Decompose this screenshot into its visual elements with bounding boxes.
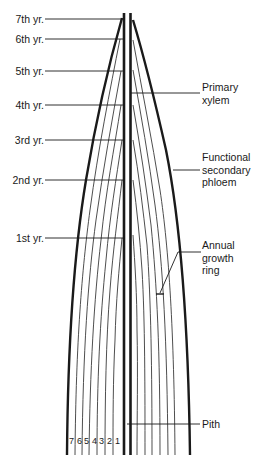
- ring-number-1: 1: [115, 436, 120, 446]
- label-functional-secondary-phloem: Functional secondary phloem: [202, 151, 250, 189]
- ring-number-2: 2: [107, 436, 112, 446]
- label-4th-yr: 4th yr.: [6, 99, 44, 112]
- label-1st-yr: 1st yr.: [6, 232, 44, 245]
- label-line: growth: [202, 252, 235, 265]
- label-6th-yr: 6th yr.: [6, 33, 44, 46]
- ring-number-4: 4: [92, 436, 97, 446]
- label-line: xylem: [202, 94, 238, 107]
- label-line: Primary: [202, 81, 238, 94]
- ring-number-7: 7: [69, 436, 74, 446]
- label-annual-growth-ring: Annual growth ring: [202, 239, 235, 277]
- ring-number-3: 3: [99, 436, 104, 446]
- label-line: secondary: [202, 164, 250, 177]
- label-3rd-yr: 3rd yr.: [6, 134, 44, 147]
- ring-number-5: 5: [84, 436, 89, 446]
- label-line: phloem: [202, 176, 250, 189]
- label-line: Annual: [202, 239, 235, 252]
- label-pith: Pith: [202, 418, 220, 431]
- left-growth-rings: [75, 39, 122, 455]
- pith-center-lines: [124, 13, 131, 455]
- ring-number-6: 6: [77, 436, 82, 446]
- label-5th-yr: 5th yr.: [6, 65, 44, 78]
- label-2nd-yr: 2nd yr.: [6, 174, 44, 187]
- label-line: Functional: [202, 151, 250, 164]
- label-7th-yr: 7th yr.: [6, 13, 44, 26]
- label-primary-xylem: Primary xylem: [202, 81, 238, 106]
- label-line: ring: [202, 264, 235, 277]
